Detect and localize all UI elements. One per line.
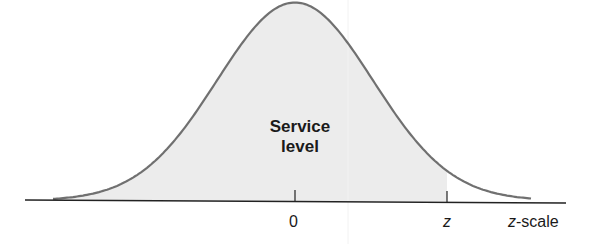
axis-label-scale: -scale xyxy=(516,213,559,230)
axis-label-z-scale: z-scale xyxy=(508,213,559,231)
service-level-line2: level xyxy=(240,137,360,157)
service-level-label: Service level xyxy=(240,117,360,157)
service-level-shaded-area xyxy=(53,3,532,202)
service-level-line1: Service xyxy=(240,117,360,137)
tick-label-z: z xyxy=(443,213,451,231)
tick-label-zero: 0 xyxy=(289,213,298,231)
axis-label-z: z xyxy=(508,213,516,230)
